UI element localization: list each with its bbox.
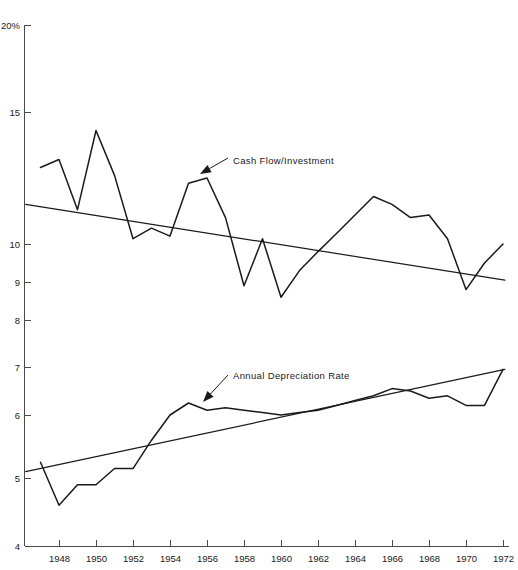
cash-flow-arrow-icon [200,165,212,174]
y-tick-label-8: 8 [15,315,20,326]
cash-flow-annotation-label: Cash Flow/Investment [233,155,334,166]
depreciation-annotation: Annual Depreciation Rate [203,370,350,402]
y-tick-label-9: 9 [15,277,20,288]
y-tick-label-15: 15 [9,107,20,118]
y-tick-label-6: 6 [15,410,20,421]
depreciation-annotation-label: Annual Depreciation Rate [233,370,350,381]
x-axis: 1948195019521954195619581960196219641966… [25,540,515,564]
y-tick-label-7: 7 [15,362,20,373]
x-tick-label-1948: 1948 [49,553,70,564]
x-tick-label-1964: 1964 [345,553,366,564]
x-tick-label-1970: 1970 [456,553,477,564]
cash-flow-annotation: Cash Flow/Investment [200,155,334,174]
series-line-annual-depreciation-rate [41,369,504,505]
chart-container: 20%1510987654 19481950195219541956195819… [0,0,518,570]
x-tick-label-1972: 1972 [493,553,514,564]
y-tick-group: 20%1510987654 [1,20,31,552]
x-tick-group: 1948195019521954195619581960196219641966… [49,540,514,564]
cash-flow-leader-line [210,158,228,169]
x-tick-label-1950: 1950 [86,553,107,564]
trend-line-group [26,204,505,471]
x-tick-label-1962: 1962 [308,553,329,564]
x-tick-label-1958: 1958 [234,553,255,564]
y-tick-label-10: 10 [9,239,20,250]
x-tick-label-1968: 1968 [419,553,440,564]
y-tick-label-20%: 20% [1,20,21,31]
x-tick-label-1956: 1956 [197,553,218,564]
y-tick-label-5: 5 [15,473,20,484]
depreciation-leader-line [210,375,228,394]
y-axis: 20%1510987654 [1,20,31,552]
y-tick-label-4: 4 [15,541,20,552]
trend-line-cash-flow-investment [26,204,505,280]
x-tick-label-1952: 1952 [123,553,144,564]
line-chart: 20%1510987654 19481950195219541956195819… [0,0,518,570]
series-group [41,130,504,505]
x-tick-label-1966: 1966 [382,553,403,564]
trend-line-annual-depreciation-rate [26,369,505,471]
x-tick-label-1960: 1960 [271,553,292,564]
x-tick-label-1954: 1954 [160,553,181,564]
